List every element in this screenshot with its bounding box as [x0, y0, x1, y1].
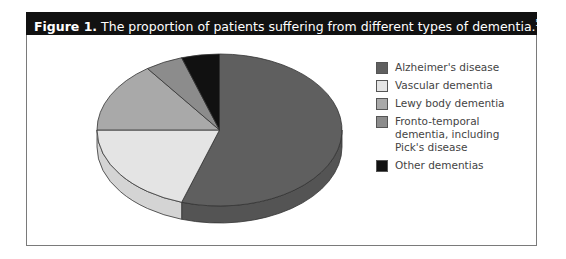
legend-swatch	[376, 160, 388, 172]
legend-label: Other dementias	[395, 159, 525, 172]
legend-item-lewy-body: Lewy body dementia	[376, 97, 525, 110]
legend-swatch	[376, 98, 388, 110]
legend: Alzheimer's disease Vascular dementia Le…	[376, 61, 525, 177]
legend-swatch	[376, 116, 388, 128]
legend-label: Vascular dementia	[395, 79, 525, 92]
legend-label: Lewy body dementia	[395, 97, 525, 110]
legend-item-vascular: Vascular dementia	[376, 79, 525, 92]
legend-swatch	[376, 62, 388, 74]
legend-label: Fronto-temporal dementia, including Pick…	[395, 115, 513, 154]
legend-swatch	[376, 80, 388, 92]
legend-item-other: Other dementias	[376, 159, 525, 172]
legend-item-fronto-temporal: Fronto-temporal dementia, including Pick…	[376, 115, 525, 154]
legend-label: Alzheimer's disease	[395, 61, 525, 74]
legend-item-alzheimers: Alzheimer's disease	[376, 61, 525, 74]
